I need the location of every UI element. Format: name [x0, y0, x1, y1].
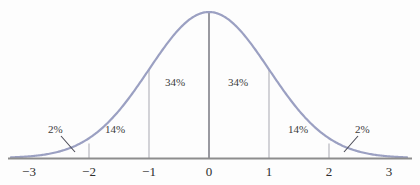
region-label-right-inner: 34%: [228, 77, 248, 88]
x-tick-label-plus-2: 2: [326, 165, 333, 178]
normal-distribution-figure: 2% 14% 34% 34% 14% 2% −3 −2 −1 0 1 2 3: [0, 0, 420, 185]
bell-curve-plot: [0, 0, 420, 185]
x-tick-label-zero: 0: [206, 165, 213, 178]
region-label-right-mid: 14%: [288, 124, 308, 135]
region-label-left-mid: 14%: [105, 124, 125, 135]
region-label-left-tail: 2%: [48, 124, 63, 135]
x-tick-label-plus-1: 1: [266, 165, 273, 178]
x-tick-label-minus-3: −3: [22, 165, 36, 178]
region-label-left-inner: 34%: [165, 77, 185, 88]
x-tick-label-minus-2: −2: [82, 165, 96, 178]
region-label-right-tail: 2%: [355, 124, 370, 135]
x-tick-label-plus-3: 3: [386, 165, 393, 178]
x-tick-label-minus-1: −1: [142, 165, 156, 178]
